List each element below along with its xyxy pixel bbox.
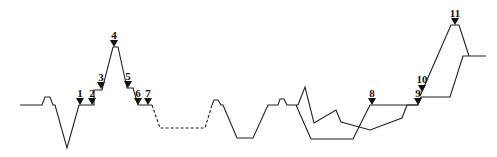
marker-triangle-icon — [110, 40, 118, 47]
marker-label: 7 — [145, 87, 151, 99]
marker-label: 3 — [98, 71, 104, 83]
marker-triangle-icon — [134, 98, 142, 105]
marker-label: 5 — [125, 70, 131, 82]
zigzag-path — [298, 87, 407, 130]
marker-triangle-icon — [124, 81, 132, 88]
profile-diagram: 1234567891011 — [0, 0, 497, 157]
dashed-trough — [152, 105, 212, 128]
marker-triangle-icon — [414, 98, 422, 105]
marker-label: 2 — [89, 87, 95, 99]
marker-label: 11 — [450, 7, 460, 19]
marker-label: 1 — [77, 87, 83, 99]
baseline-middle — [212, 99, 298, 138]
marker-label: 6 — [135, 87, 141, 99]
marker-triangle-icon — [76, 98, 84, 105]
marker-triangle-icon — [144, 98, 152, 105]
marker-triangle-icon — [88, 98, 96, 105]
marker-triangle-icon — [368, 98, 376, 105]
marker-label: 4 — [111, 29, 117, 41]
baseline-left — [20, 47, 152, 148]
marker-label: 10 — [417, 73, 429, 85]
diagram-svg: 1234567891011 — [0, 0, 497, 157]
marker-label: 8 — [369, 87, 375, 99]
marker-triangle-icon — [97, 82, 105, 89]
marker-triangle-icon — [451, 18, 459, 25]
